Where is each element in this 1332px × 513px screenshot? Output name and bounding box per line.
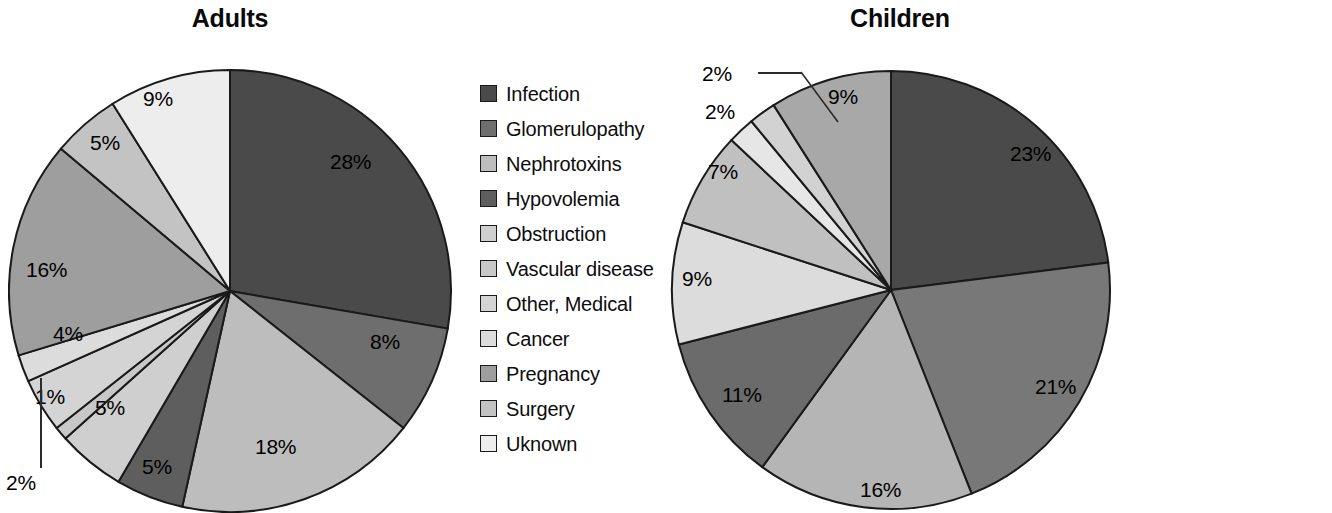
adults-slice-percent-label: 2%	[6, 471, 36, 495]
legend-swatch-icon	[480, 365, 497, 382]
legend-swatch-icon	[480, 295, 497, 312]
children-leader-line-natal-horizontal	[758, 72, 802, 74]
adults-legend-item[interactable]: Nephrotoxins	[480, 146, 654, 181]
adults-slice-percent-label: 9%	[143, 87, 173, 111]
children-leader-line-natal-diagonal	[800, 70, 860, 126]
children-pie-chart	[668, 58, 1128, 513]
legend-swatch-icon	[480, 400, 497, 417]
children-slice-percent-label: 2%	[702, 62, 732, 86]
adults-slice-percent-label: 8%	[370, 330, 400, 354]
adults-slice-percent-label: 5%	[95, 396, 125, 420]
children-slice-percent-label: 11%	[722, 383, 762, 407]
adults-legend-item[interactable]: Infection	[480, 76, 654, 111]
adults-legend-item[interactable]: Obstruction	[480, 216, 654, 251]
adults-legend-item[interactable]: Other, Medical	[480, 286, 654, 321]
legend-swatch-icon	[480, 330, 497, 347]
adults-legend-item-label: Infection	[506, 84, 580, 104]
adults-legend-item[interactable]: Glomerulopathy	[480, 111, 654, 146]
adults-legend-item[interactable]: Hypovolemia	[480, 181, 654, 216]
children-slice-percent-label: 21%	[1035, 375, 1076, 399]
adults-legend-item-label: Nephrotoxins	[506, 154, 621, 174]
adults-legend: InfectionGlomerulopathyNephrotoxinsHypov…	[480, 76, 654, 461]
legend-swatch-icon	[480, 120, 497, 137]
adults-legend-item-label: Hypovolemia	[506, 189, 619, 209]
adults-legend-item[interactable]: Surgery	[480, 391, 654, 426]
children-chart-panel: Children 23%21%16%11%9%7%2%2%9% Infectio…	[660, 0, 1332, 513]
adults-chart-panel: Adults 28%8%18%5%5%1%4%2%16%5%9% Infecti…	[0, 0, 690, 513]
adults-slice-percent-label: 5%	[142, 455, 172, 479]
adults-legend-item-label: Glomerulopathy	[506, 119, 644, 139]
adults-pie-chart	[8, 58, 478, 513]
adults-slice-percent-label: 4%	[53, 322, 83, 346]
children-slice-percent-label: 2%	[705, 100, 735, 124]
adults-legend-item-label: Vascular disease	[506, 259, 654, 279]
legend-swatch-icon	[480, 435, 497, 452]
adults-legend-item-label: Cancer	[506, 329, 569, 349]
adults-slice-percent-label: 5%	[90, 131, 120, 155]
adults-legend-item-label: Obstruction	[506, 224, 606, 244]
adults-legend-item[interactable]: Uknown	[480, 426, 654, 461]
adults-slice-percent-label: 28%	[330, 150, 371, 174]
adults-leader-line-cancer	[40, 378, 42, 468]
children-slice-percent-label: 16%	[860, 478, 901, 502]
children-slice-percent-label: 7%	[708, 160, 738, 184]
children-slice-percent-label: 23%	[1010, 142, 1051, 166]
pie-slice	[891, 71, 1108, 290]
adults-legend-item[interactable]: Pregnancy	[480, 356, 654, 391]
page-title-children: Children	[790, 4, 1010, 33]
adults-legend-item-label: Surgery	[506, 399, 575, 419]
legend-swatch-icon	[480, 260, 497, 277]
legend-swatch-icon	[480, 225, 497, 242]
adults-slice-percent-label: 16%	[26, 258, 67, 282]
legend-swatch-icon	[480, 190, 497, 207]
adults-legend-item-label: Pregnancy	[506, 364, 600, 384]
page-title-adults: Adults	[120, 4, 340, 33]
children-slice-percent-label: 9%	[682, 267, 712, 291]
adults-legend-item-label: Uknown	[506, 434, 577, 454]
pie-slice	[230, 70, 451, 329]
adults-slice-percent-label: 18%	[255, 435, 296, 459]
adults-legend-item[interactable]: Vascular disease	[480, 251, 654, 286]
adults-legend-item-label: Other, Medical	[506, 294, 632, 314]
legend-swatch-icon	[480, 85, 497, 102]
legend-swatch-icon	[480, 155, 497, 172]
adults-legend-item[interactable]: Cancer	[480, 321, 654, 356]
